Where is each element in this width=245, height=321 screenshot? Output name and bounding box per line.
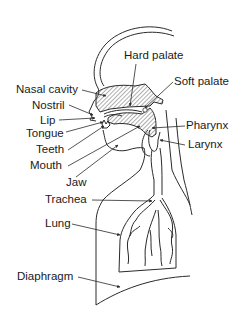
label-nasal-cavity: Nasal cavity [16, 84, 78, 96]
palate-tongue-shape [102, 108, 156, 137]
label-diaphragm: Diaphragm [17, 271, 73, 283]
respiratory-diagram: Hard palate Soft palate Nasal cavity Nos… [0, 0, 245, 321]
label-lip: Lip [40, 115, 55, 127]
diaphragm-shape [96, 276, 190, 305]
label-tongue: Tongue [26, 128, 64, 140]
label-mouth: Mouth [30, 160, 62, 172]
label-hard-palate: Hard palate [124, 50, 183, 62]
label-soft-palate: Soft palate [174, 76, 229, 88]
label-teeth: Teeth [36, 144, 64, 156]
label-lung: Lung [45, 218, 71, 230]
label-nostril: Nostril [32, 100, 65, 112]
lung-shape [119, 195, 176, 272]
nasal-cavity-shape [96, 84, 163, 112]
label-larynx: Larynx [188, 139, 223, 151]
label-pharynx: Pharynx [186, 120, 228, 132]
label-jaw: Jaw [66, 177, 86, 189]
label-trachea: Trachea [45, 194, 87, 206]
